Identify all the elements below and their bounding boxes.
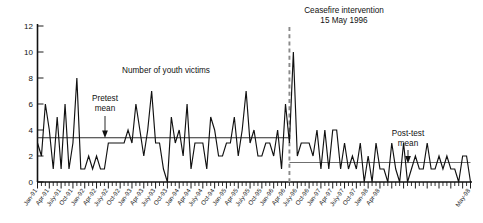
pretest-mean-label-line2: mean (95, 104, 116, 113)
intervention-label-line2: 15 May 1996 (320, 16, 368, 25)
y-tick-label: 10 (24, 48, 33, 57)
y-tick-label: 12 (24, 22, 33, 31)
posttest-mean-label-line2: mean (398, 139, 419, 148)
series-label: Number of youth victims (122, 66, 210, 75)
chart-background (0, 0, 483, 223)
pretest-mean-label-line1: Pretest (92, 94, 119, 103)
y-tick-label: 4 (29, 126, 34, 135)
chart-container: 024681012 Jan-91Apr-91July-91Oct-91Jan-9… (0, 0, 483, 223)
intervention-label-line1: Ceasefire intervention (304, 6, 384, 15)
y-tick-label: 0 (29, 178, 34, 187)
youth-victims-time-series-chart: 024681012 Jan-91Apr-91July-91Oct-91Jan-9… (0, 0, 483, 223)
y-tick-label: 6 (29, 100, 34, 109)
posttest-mean-label-line1: Post-test (392, 129, 425, 138)
y-tick-label: 2 (29, 152, 34, 161)
y-tick-label: 8 (29, 74, 34, 83)
